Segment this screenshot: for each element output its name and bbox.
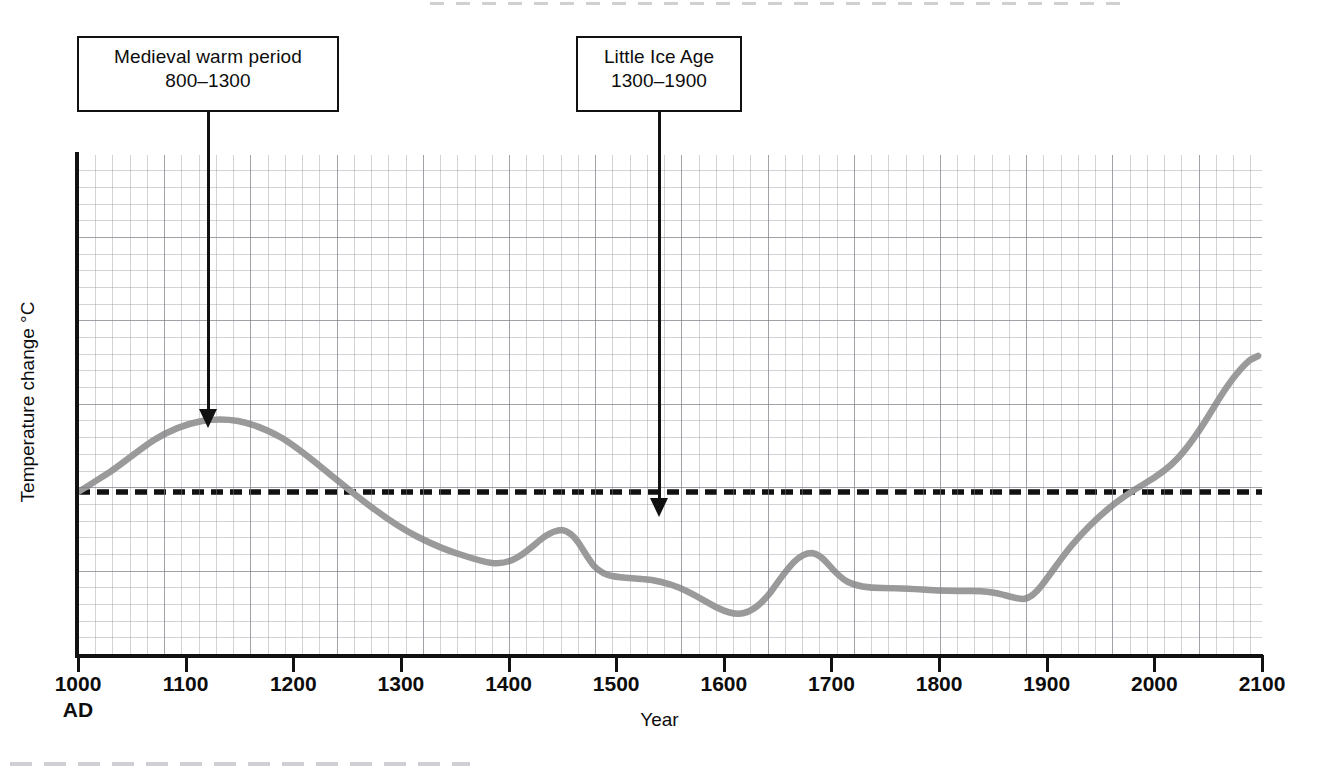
x-axis-tick <box>508 655 511 672</box>
plot-area <box>78 155 1262 655</box>
scan-artifact-top-edge <box>430 2 1120 5</box>
x-axis-tick <box>185 655 188 672</box>
x-axis-tick <box>615 655 618 672</box>
x-axis-tick <box>830 655 833 672</box>
x-axis-tick <box>400 655 403 672</box>
chart-page: 1000AD1100120013001400150016001700180019… <box>0 0 1319 772</box>
x-axis-tick-label: 1100 <box>163 672 209 696</box>
x-axis-tick-label: 1700 <box>808 672 855 696</box>
x-axis-tick-label: 1300 <box>378 672 425 696</box>
grid-lines <box>78 155 1262 655</box>
x-axis-tick <box>1046 655 1049 672</box>
scan-artifact-bottom-edge <box>10 762 470 766</box>
annotation-medieval-arrow-icon <box>199 409 217 428</box>
x-axis-tick-label: 1900 <box>1023 672 1070 696</box>
annotation-lia-line2: 1300–1900 <box>588 69 730 93</box>
x-axis-tick-label: 1400 <box>485 672 532 696</box>
x-axis-tick <box>77 655 80 672</box>
x-axis-tick-label: 1200 <box>270 672 317 696</box>
x-axis-tick <box>292 655 295 672</box>
x-axis-tick <box>1153 655 1156 672</box>
annotation-lia-arrow-icon <box>650 498 668 517</box>
annotation-medieval-line2: 800–1300 <box>89 69 327 93</box>
x-axis-title: Year <box>0 709 1319 731</box>
annotation-medieval-warm-period: Medieval warm period 800–1300 <box>77 36 339 112</box>
x-axis-tick-label: 2000 <box>1131 672 1178 696</box>
annotation-medieval-line1: Medieval warm period <box>89 45 327 69</box>
x-axis-tick-label: 1800 <box>916 672 963 696</box>
annotation-lia-line1: Little Ice Age <box>588 45 730 69</box>
x-axis-line <box>75 654 1263 658</box>
x-axis-tick <box>938 655 941 672</box>
y-axis-title: Temperature change °C <box>17 142 39 662</box>
y-axis-line <box>75 152 79 658</box>
x-axis-tick <box>1261 655 1264 672</box>
x-axis-tick-label: 1000 <box>55 672 102 696</box>
annotation-medieval-leader-line <box>207 112 210 410</box>
x-axis-tick-label: 1500 <box>593 672 640 696</box>
x-axis-tick-label: 1600 <box>700 672 747 696</box>
annotation-little-ice-age: Little Ice Age 1300–1900 <box>576 36 742 112</box>
x-axis-tick-label: 2100 <box>1239 672 1286 696</box>
annotation-lia-leader-line <box>658 112 661 499</box>
x-axis-tick <box>723 655 726 672</box>
